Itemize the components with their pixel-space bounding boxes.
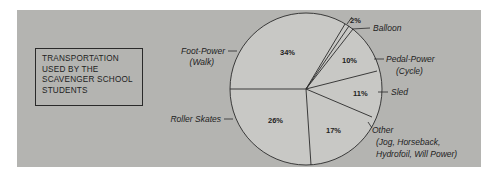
label-foot-power-sub: (Walk) <box>190 57 215 67</box>
label-other-sub1: (Jog, Horseback, <box>376 137 440 147</box>
slice-pct-pedal-power: 10% <box>342 56 357 65</box>
label-sled: Sled <box>391 87 408 97</box>
pie-chart: 34% 2% 10% 11% 17% 26% Foot-Power (Walk)… <box>0 0 489 176</box>
slice-pct-sled: 11% <box>353 89 368 98</box>
slice-pct-other: 17% <box>326 126 341 135</box>
slice-pct-balloon: 2% <box>350 16 361 25</box>
label-roller-skates: Roller Skates <box>170 114 221 124</box>
slice-pct-foot-power: 34% <box>280 48 295 57</box>
label-balloon: Balloon <box>373 23 402 33</box>
slice-pct-roller-skates: 26% <box>268 116 283 125</box>
label-other-sub2: Hydrofoil, Will Power) <box>376 149 457 159</box>
label-foot-power: Foot-Power <box>181 46 226 56</box>
label-pedal-power: Pedal-Power <box>386 54 436 64</box>
label-other: Other <box>372 125 394 135</box>
label-pedal-power-sub: (Cycle) <box>396 66 423 76</box>
